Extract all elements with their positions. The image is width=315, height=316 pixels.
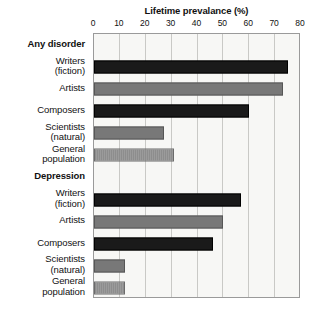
category-label: Scientists(natural): [45, 254, 85, 275]
bar-row: [94, 189, 299, 211]
label-line-2: population: [42, 154, 85, 165]
bar: [94, 237, 213, 250]
chart-title: Lifetime prevalance (%): [93, 5, 300, 16]
bar-row: [94, 277, 299, 298]
bar: [94, 127, 164, 140]
x-tick-label-50: 50: [218, 18, 227, 28]
category-axis-labels: Any disorderWriters(fiction)ArtistsCompo…: [0, 33, 89, 298]
plot-area: [93, 33, 300, 298]
bar: [94, 215, 223, 228]
label-line-2: (natural): [45, 132, 85, 143]
bar: [94, 149, 174, 162]
label-line-2: (fiction): [55, 66, 85, 77]
bar: [94, 83, 283, 96]
bar-row: [94, 56, 299, 78]
group-header-row: [94, 167, 299, 189]
label-line-1: Any disorder: [28, 38, 85, 49]
bar-row: [94, 78, 299, 100]
label-line-1: General: [52, 275, 85, 286]
bar-chart-figure: Lifetime prevalance (%) 0102030405060708…: [0, 0, 315, 316]
x-tick-label-70: 70: [269, 18, 278, 28]
label-line-1: Scientists: [45, 253, 85, 264]
bar: [94, 193, 241, 206]
bar-rows: [94, 34, 299, 297]
category-label: Composers: [37, 105, 85, 116]
label-line-1: Writers: [56, 187, 85, 198]
x-tick-label-0: 0: [91, 18, 96, 28]
x-tick-label-20: 20: [140, 18, 149, 28]
x-tick-label-30: 30: [166, 18, 175, 28]
x-tick-label-60: 60: [244, 18, 253, 28]
label-line-1: Depression: [34, 170, 85, 181]
bar-row: [94, 122, 299, 144]
bar-row: [94, 233, 299, 255]
label-line-1: Composers: [37, 237, 85, 248]
x-tick-label-40: 40: [192, 18, 201, 28]
bar-row: [94, 255, 299, 277]
group-label: Any disorder: [28, 39, 85, 50]
label-line-2: population: [42, 287, 85, 298]
category-label: Writers(fiction): [55, 188, 85, 209]
label-line-1: Artists: [59, 214, 85, 225]
category-label: Generalpopulation: [42, 276, 85, 297]
category-label: Scientists(natural): [45, 122, 85, 143]
x-tick-label-80: 80: [295, 18, 304, 28]
label-line-1: Composers: [37, 104, 85, 115]
label-line-2: (natural): [45, 265, 85, 276]
label-line-1: Scientists: [45, 121, 85, 132]
label-line-2: (fiction): [55, 199, 85, 210]
bar: [94, 259, 125, 272]
x-tick-label-10: 10: [114, 18, 123, 28]
bar: [94, 105, 249, 118]
bar-row: [94, 100, 299, 122]
bar: [94, 61, 288, 74]
label-line-1: General: [52, 143, 85, 154]
category-label: Writers(fiction): [55, 56, 85, 77]
label-line-1: Writers: [56, 55, 85, 66]
category-label: Generalpopulation: [42, 144, 85, 165]
category-label: Artists: [59, 83, 85, 94]
category-label: Artists: [59, 215, 85, 226]
bar: [94, 281, 125, 294]
bar-row: [94, 144, 299, 166]
label-line-1: Artists: [59, 82, 85, 93]
group-header-row: [94, 34, 299, 56]
x-axis-tick-labels: 01020304050607080: [93, 18, 300, 32]
category-label: Composers: [37, 238, 85, 249]
bar-row: [94, 211, 299, 233]
group-label: Depression: [34, 171, 85, 182]
